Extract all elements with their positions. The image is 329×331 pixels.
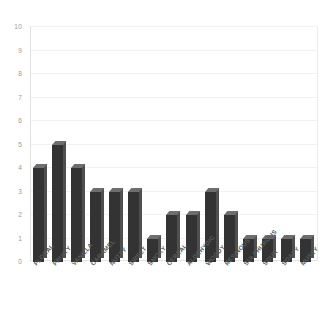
bars-layer [31, 26, 317, 262]
y-axis-tick-label: 4 [18, 164, 22, 171]
bar-slot [241, 26, 260, 262]
bar-slot [126, 26, 145, 262]
bar[interactable] [33, 168, 44, 262]
bar-front-face [33, 168, 44, 262]
bar-slot [69, 26, 88, 262]
bar-slot [145, 26, 164, 262]
bar-slot [184, 26, 203, 262]
bar-top-face [205, 188, 219, 192]
y-axis-tick-label: 3 [18, 187, 22, 194]
bar-slot [260, 26, 279, 262]
y-axis-tick-label: 10 [14, 23, 22, 30]
bar[interactable] [71, 168, 82, 262]
y-axis-tick-label: 2 [18, 211, 22, 218]
bar-slot [50, 26, 69, 262]
bar-slot [203, 26, 222, 262]
bar-slot [107, 26, 126, 262]
y-axis-tick-label: 5 [18, 140, 22, 147]
bar-slot [31, 26, 50, 262]
y-axis-tick-label: 0 [18, 258, 22, 265]
bar-slot [222, 26, 241, 262]
y-axis-tick-label: 9 [18, 46, 22, 53]
bar[interactable] [52, 145, 63, 263]
y-axis-tick-label: 1 [18, 234, 22, 241]
x-axis-labels: FLORALFRUITYVANILLACARAMELNUTTYSWEETSMOK… [31, 262, 317, 331]
bar-side-face [63, 141, 66, 259]
bar-front-face [71, 168, 82, 262]
bar-chart: 012345678910 FLORALFRUITYVANILLACARAMELN… [0, 0, 329, 331]
bar-slot [279, 26, 298, 262]
bar-front-face [52, 145, 63, 263]
y-axis-tick-label: 8 [18, 70, 22, 77]
bar-slot [164, 26, 183, 262]
y-axis-tick-label: 6 [18, 117, 22, 124]
bar-slot [298, 26, 317, 262]
y-axis-tick-label: 7 [18, 93, 22, 100]
y-axis: 012345678910 [0, 26, 30, 262]
bar-slot [88, 26, 107, 262]
